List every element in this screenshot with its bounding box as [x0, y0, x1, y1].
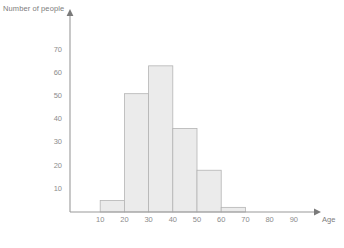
plot-area	[0, 0, 344, 248]
histogram-bar	[149, 66, 173, 212]
histogram-bar	[124, 94, 148, 212]
histogram-bar	[100, 200, 124, 212]
x-axis-arrow-icon	[314, 209, 321, 216]
histogram-chart: Number of people Age 10203040506070 1020…	[0, 0, 344, 248]
bars-group	[100, 66, 245, 212]
y-axis-arrow-icon	[67, 9, 74, 16]
histogram-bar	[197, 170, 221, 212]
histogram-bar	[221, 207, 245, 212]
histogram-bar	[173, 128, 197, 212]
